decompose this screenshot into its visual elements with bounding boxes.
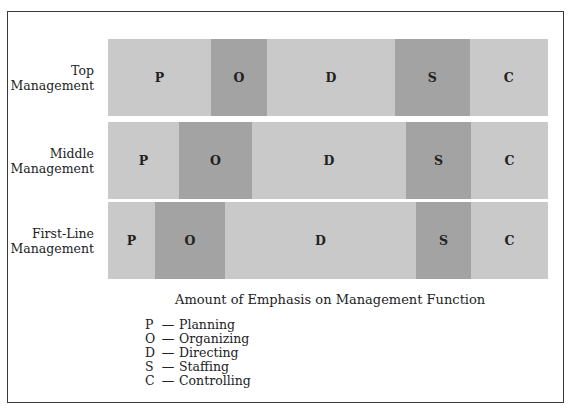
legend-dash: — [157,346,179,360]
stacked-bar: P O D S C [108,202,548,279]
segment-directing: D [225,202,416,279]
row-label: First-Line Management [0,202,94,279]
row-middle-management: Middle Management P O D S C [0,122,571,199]
legend-dash: — [157,374,179,388]
legend-item-staffing: S — Staffing [145,360,251,374]
segment-staffing: S [395,39,470,116]
segment-staffing: S [416,202,471,279]
legend-key: S [145,360,157,374]
row-label-line2: Management [0,241,94,256]
legend-item-directing: D — Directing [145,346,251,360]
segment-organizing: O [179,122,252,199]
row-top-management: Top Management P O D S C [0,39,571,116]
segment-planning: P [108,39,211,116]
legend-dash: — [157,332,179,346]
row-first-line-management: First-Line Management P O D S C [0,202,571,279]
segment-controlling: C [471,122,548,199]
legend-label: Planning [179,318,235,332]
legend-label: Directing [179,346,238,360]
row-label: Top Management [0,39,94,116]
segment-controlling: C [471,202,548,279]
legend-item-organizing: O — Organizing [145,332,251,346]
legend-dash: — [157,318,179,332]
x-axis-caption: Amount of Emphasis on Management Functio… [175,292,485,307]
legend-label: Organizing [179,332,249,346]
stacked-bar: P O D S C [108,122,548,199]
row-label-line1: Middle [0,146,94,161]
segment-organizing: O [211,39,267,116]
segment-planning: P [108,122,179,199]
row-label-line1: Top [0,63,94,78]
legend-key: O [145,332,157,346]
legend-dash: — [157,360,179,374]
legend-key: P [145,318,157,332]
legend-label: Controlling [179,374,251,388]
segment-controlling: C [470,39,548,116]
legend: P — Planning O — Organizing D — Directin… [145,318,251,388]
legend-key: D [145,346,157,360]
row-label-line2: Management [0,78,94,93]
segment-directing: D [267,39,395,116]
segment-organizing: O [155,202,225,279]
legend-item-controlling: C — Controlling [145,374,251,388]
segment-staffing: S [406,122,471,199]
row-label-line2: Management [0,161,94,176]
legend-label: Staffing [179,360,229,374]
segment-planning: P [108,202,155,279]
row-label: Middle Management [0,122,94,199]
legend-item-planning: P — Planning [145,318,251,332]
legend-key: C [145,374,157,388]
stacked-bar: P O D S C [108,39,548,116]
segment-directing: D [252,122,406,199]
row-label-line1: First-Line [0,226,94,241]
